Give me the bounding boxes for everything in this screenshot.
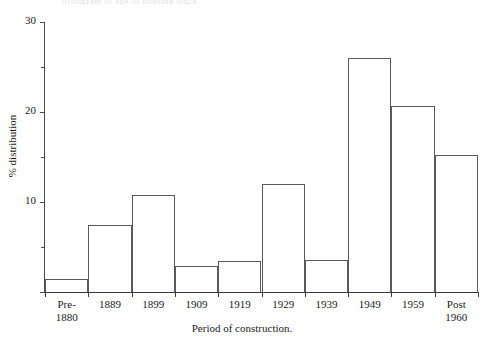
x-tick-label: 1899 [132, 298, 175, 311]
x-tick-label: 1889 [88, 298, 131, 311]
bar [218, 261, 261, 293]
x-tick-mark [348, 292, 349, 297]
x-tick-mark [305, 292, 306, 297]
bar [262, 184, 305, 292]
bar [132, 195, 175, 292]
x-tick-mark [435, 292, 436, 297]
x-tick-label: 1939 [305, 298, 348, 311]
y-tick-label: 10 [25, 195, 36, 206]
y-axis-title: % distribution [6, 86, 18, 206]
x-tick-mark [132, 292, 133, 297]
bar [175, 266, 218, 292]
x-tick-label: Post 1960 [435, 298, 478, 323]
x-tick-label: 1919 [218, 298, 261, 311]
bar [305, 260, 348, 292]
x-tick-mark [88, 292, 89, 297]
figure-top-caption: histogram of age of housing stock [62, 0, 262, 4]
x-tick-label: 1949 [348, 298, 391, 311]
y-tick-label: 20 [25, 105, 36, 116]
x-tick-mark [175, 292, 176, 297]
bar [391, 106, 434, 292]
x-tick-mark [262, 292, 263, 297]
x-tick-label: 1959 [391, 298, 434, 311]
plot-area [45, 22, 478, 292]
x-tick-mark [478, 292, 479, 297]
x-tick-label: Pre- 1880 [45, 298, 88, 323]
bar [435, 155, 478, 292]
bar [45, 279, 88, 293]
chart-figure: histogram of age of housing stock 102030… [0, 0, 484, 341]
x-axis-title: Period of construction. [0, 322, 484, 334]
x-tick-label: 1909 [175, 298, 218, 311]
bar [88, 225, 131, 293]
bar [348, 58, 391, 292]
x-tick-mark [45, 292, 46, 297]
x-tick-mark [218, 292, 219, 297]
x-tick-label: 1929 [262, 298, 305, 311]
x-tick-mark [391, 292, 392, 297]
y-tick-label: 30 [25, 15, 36, 26]
